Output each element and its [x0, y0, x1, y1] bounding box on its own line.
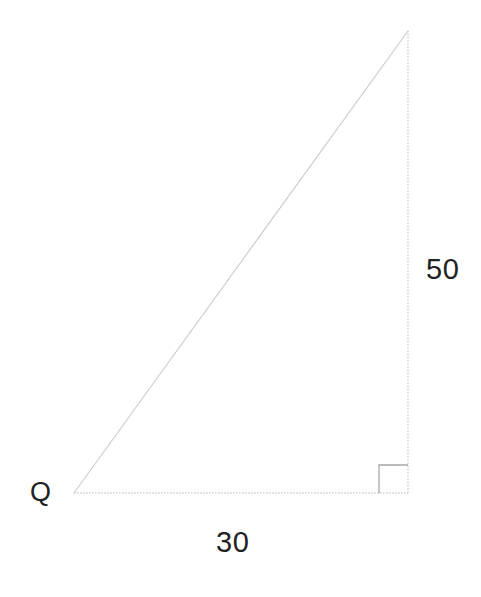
right-angle-marker-icon: [379, 465, 408, 493]
right-triangle-graphic: [0, 0, 481, 597]
vertex-label-q: Q: [30, 479, 51, 506]
side-length-label-horizontal: 30: [216, 528, 249, 557]
side-length-label-vertical: 50: [426, 255, 459, 284]
figure-canvas: Q 50 30: [0, 0, 481, 597]
triangle-side-hypotenuse: [74, 31, 408, 493]
